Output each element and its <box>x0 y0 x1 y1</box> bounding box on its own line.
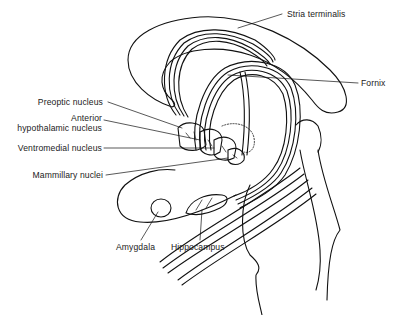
label-amygdala: Amygdala <box>116 242 155 252</box>
anterior-hypothalamic-shape <box>200 129 222 155</box>
label-mammillary-nuclei: Mammillary nuclei <box>20 170 103 180</box>
amygdala-shape <box>151 199 171 217</box>
label-hypothalamic-nucleus: hypothalamic nucleus <box>10 123 102 133</box>
label-fornix: Fornix <box>361 78 385 88</box>
leader-amygdala <box>141 212 158 240</box>
label-anterior: Anterior <box>30 113 102 123</box>
leader-mammillary <box>106 158 228 175</box>
label-stria-terminalis: Stria terminalis <box>287 9 345 19</box>
corpus-callosum-outline <box>128 17 346 113</box>
mammillary-shape <box>228 148 244 164</box>
leader-preoptic <box>108 102 182 128</box>
label-hippocampus: Hippocampus <box>171 242 225 252</box>
label-ventromedial-nucleus: Ventromedial nucleus <box>10 143 102 153</box>
limbic-diagram <box>0 0 400 315</box>
label-preoptic-nucleus: Preoptic nucleus <box>30 97 103 107</box>
hippocampus-shape <box>186 195 227 215</box>
temporal-lobe-outline <box>117 170 236 223</box>
